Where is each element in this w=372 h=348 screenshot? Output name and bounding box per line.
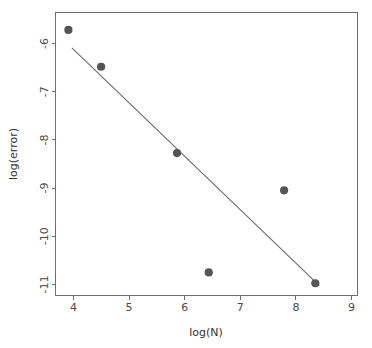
y-tick-label-2: -8: [38, 134, 51, 145]
x-axis-title: log(N): [189, 326, 223, 339]
y-tick-label-5: -11: [38, 276, 51, 294]
y-tick-label-4: -10: [38, 227, 51, 245]
data-point: [205, 268, 213, 276]
data-point: [311, 279, 319, 287]
y-axis-title: log(error): [7, 128, 20, 180]
chart-container: -6 -7 -8 -9 -10 -11: [0, 0, 372, 348]
data-point: [173, 149, 181, 157]
data-point: [97, 63, 105, 71]
x-tick-label-5: 9: [348, 301, 355, 314]
y-tick-label-3: -9: [38, 183, 51, 194]
data-point: [64, 26, 72, 34]
x-tick-label-3: 7: [237, 301, 244, 314]
y-tick-label-1: -7: [38, 86, 51, 97]
x-tick-label-1: 5: [126, 301, 133, 314]
scatter-plot-svg: -6 -7 -8 -9 -10 -11: [0, 0, 372, 348]
y-tick-label-0: -6: [38, 38, 51, 49]
x-tick-label-4: 8: [292, 301, 299, 314]
data-point: [280, 186, 288, 194]
x-tick-label-2: 6: [181, 301, 188, 314]
x-tick-label-0: 4: [70, 301, 77, 314]
